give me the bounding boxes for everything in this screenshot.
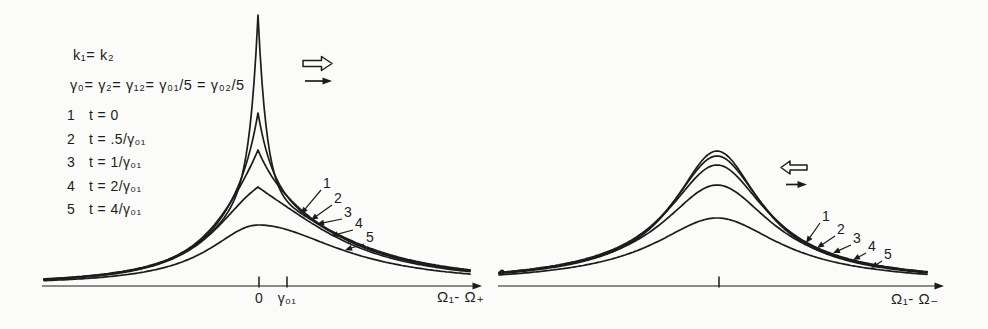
leader-line-left-1 <box>305 190 321 209</box>
leader-arrowhead-right-1 <box>806 236 813 244</box>
legend-value-2: t = .5/γ₀₁ <box>89 131 146 147</box>
tick-label-left-0: 0 <box>255 290 263 306</box>
curve-right-4 <box>499 185 927 273</box>
figure-canvas <box>0 0 988 329</box>
curve-label-left-2: 2 <box>334 190 342 206</box>
legend-row-2: 2t = .5/γ₀₁ <box>67 131 146 147</box>
curve-label-right-5: 5 <box>884 246 892 262</box>
legend-row-4: 4t = 2/γ₀₁ <box>67 178 146 194</box>
curve-label-right-3: 3 <box>853 230 861 246</box>
solid-arrow-right-icon-2 <box>786 181 807 188</box>
figure-root: k₁= k₂ γ₀= γ₂= γ₁₂= γ₀₁/5 = γ₀₂/5 1t = 0… <box>0 0 988 329</box>
tick-label-left-1: γ₀₁ <box>278 290 296 306</box>
leader-arrowhead-left-2 <box>311 214 318 221</box>
open-arrow-right-icon <box>303 57 332 71</box>
leader-line-right-4 <box>858 253 866 257</box>
leader-line-right-5 <box>876 261 882 265</box>
leader-line-right-3 <box>839 245 852 251</box>
leader-line-right-2 <box>822 236 835 245</box>
leader-arrowhead-right-2 <box>817 242 825 248</box>
legend-index-5: 5 <box>67 201 89 217</box>
curves-right <box>499 151 927 275</box>
legend-value-5: t = 4/γ₀₁ <box>89 201 142 217</box>
leader-line-left-3 <box>323 219 342 223</box>
right-axis-arrowhead-icon <box>935 283 945 290</box>
leader-line-left-4 <box>337 230 353 234</box>
condition-line-1: k₁= k₂ <box>73 47 114 63</box>
curve-left-5 <box>44 225 470 281</box>
condition-line-2: γ₀= γ₂= γ₁₂= γ₀₁/5 = γ₀₂/5 <box>70 77 245 93</box>
legend-index-1: 1 <box>67 107 89 123</box>
curve-label-left-5: 5 <box>366 229 374 245</box>
leader-arrowhead-left-5 <box>345 245 353 251</box>
curve-label-left-4: 4 <box>355 215 363 231</box>
legend-index-4: 4 <box>67 178 89 194</box>
legend-value-1: t = 0 <box>89 107 119 123</box>
legend: 1t = 02t = .5/γ₀₁3t = 1/γ₀₁4t = 2/γ₀₁5t … <box>67 107 146 225</box>
right-axis <box>498 283 944 290</box>
curve-label-left-3: 3 <box>344 204 352 220</box>
curve-endpoint-dot <box>500 270 505 275</box>
curve-label-right-2: 2 <box>837 221 845 237</box>
x-axis-label-left: Ω₁- Ω₊ <box>437 288 485 306</box>
legend-index-2: 2 <box>67 131 89 147</box>
legend-index-3: 3 <box>67 154 89 170</box>
solid-arrow-right-icon <box>305 77 332 84</box>
open-arrow-left-icon <box>781 161 807 174</box>
left-axis <box>42 283 482 290</box>
legend-row-3: 3t = 1/γ₀₁ <box>67 154 146 170</box>
legend-row-1: 1t = 0 <box>67 107 146 123</box>
legend-value-3: t = 1/γ₀₁ <box>89 154 142 170</box>
leader-line-left-2 <box>316 205 332 217</box>
leader-line-right-1 <box>809 223 820 238</box>
legend-value-4: t = 2/γ₀₁ <box>89 178 142 194</box>
curve-label-left-1: 1 <box>323 175 331 191</box>
curve-label-right-4: 4 <box>868 238 876 254</box>
curve-label-right-1: 1 <box>822 208 830 224</box>
x-axis-label-right: Ω₁- Ω₋ <box>891 290 939 308</box>
legend-row-5: 5t = 4/γ₀₁ <box>67 201 146 217</box>
